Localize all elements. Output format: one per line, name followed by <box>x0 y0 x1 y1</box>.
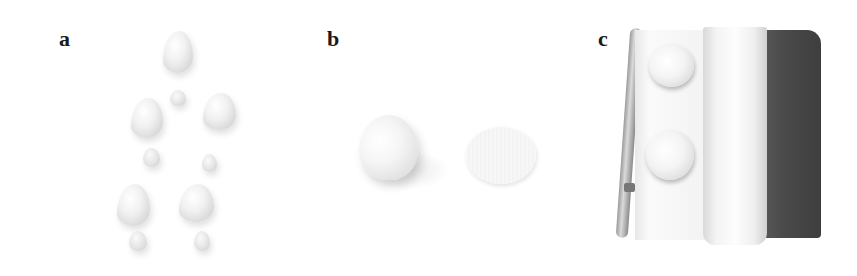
domed-dollop <box>359 115 418 180</box>
dollop-large <box>179 184 214 222</box>
baking-tray <box>759 30 821 238</box>
dollop-large <box>117 184 150 226</box>
tray-clip <box>624 183 635 192</box>
panel-label-b: b <box>327 28 339 50</box>
dollop-small <box>194 231 210 251</box>
dollop-small <box>170 90 186 106</box>
dollop-large <box>131 98 163 138</box>
panel-label-a: a <box>59 28 70 50</box>
parchment-fold <box>703 27 767 245</box>
dollop-small <box>129 231 147 251</box>
panel-b: b <box>290 0 580 276</box>
dollop-large <box>163 31 193 73</box>
dollop-large <box>203 93 236 130</box>
flattened-disc <box>466 127 536 184</box>
dollop-small <box>143 148 160 167</box>
piped-round <box>649 44 694 87</box>
piped-round <box>646 130 694 180</box>
dollop-small <box>202 154 217 172</box>
panel-label-c: c <box>598 28 608 50</box>
panel-c: c <box>580 0 857 276</box>
panel-a: a <box>0 0 290 276</box>
